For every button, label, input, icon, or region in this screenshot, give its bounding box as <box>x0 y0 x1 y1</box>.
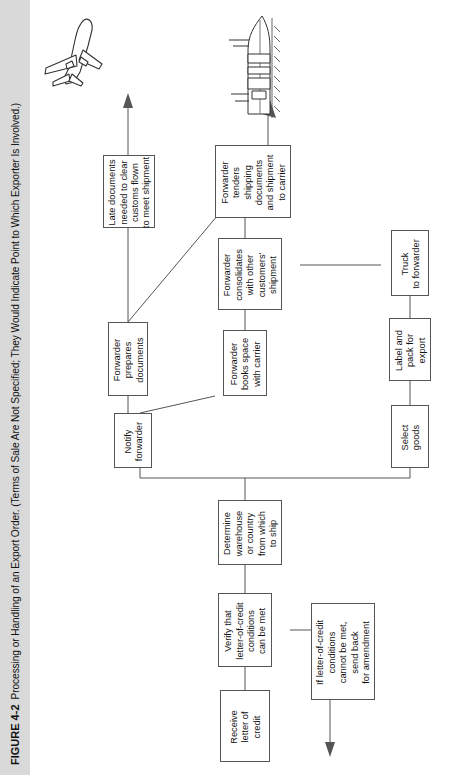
node-label: Verify that letter-of-credit conditions … <box>219 594 273 668</box>
node-forwarder-tenders: Forwarder tenders shipping documents and… <box>215 145 291 218</box>
node-forwarder-books-space: Forwarder books space with carrier <box>223 330 267 396</box>
node-determine-warehouse: Determine warehouse or country from whic… <box>218 500 282 565</box>
node-verify-letter-of-credit: Verify that letter-of-credit conditions … <box>218 593 272 667</box>
node-label: Forwarder consolidates with other custom… <box>219 239 283 311</box>
node-truck-to-forwarder: Truck to forwarder <box>391 230 429 296</box>
node-label: Forwarder books space with carrier <box>224 331 268 397</box>
node-label: Late documents needed to clear customs f… <box>104 156 156 229</box>
node-label-and-pack: Label and pack for export <box>389 318 431 381</box>
figure-canvas: FIGURE 4-2 Processing or Handling of an … <box>0 0 458 775</box>
node-label: Forwarder prepares documents <box>109 323 149 397</box>
node-forwarder-prepares-documents: Forwarder prepares documents <box>108 322 148 396</box>
node-label: Truck to forwarder <box>392 231 430 297</box>
node-receive-letter-of-credit: Receive letter of credit <box>220 690 270 762</box>
node-select-goods: Select goods <box>391 405 429 468</box>
node-amendment: If letter-of-credit conditions cannot be… <box>311 603 375 700</box>
node-notify-forwarder: Notify forwarder <box>114 413 152 468</box>
node-late-documents: Late documents needed to clear customs f… <box>103 155 155 228</box>
node-label: Select goods <box>392 406 430 469</box>
ship-illustration <box>208 10 318 130</box>
node-label: Notify forwarder <box>115 414 153 469</box>
node-label: Forwarder tenders shipping documents and… <box>216 146 292 219</box>
node-label: Determine warehouse or country from whic… <box>219 501 283 566</box>
node-forwarder-consolidates: Forwarder consolidates with other custom… <box>218 238 282 310</box>
airplane-illustration <box>36 12 136 92</box>
node-label: If letter-of-credit conditions cannot be… <box>312 604 376 701</box>
node-label: Receive letter of credit <box>221 691 271 763</box>
node-label: Label and pack for export <box>390 319 432 382</box>
